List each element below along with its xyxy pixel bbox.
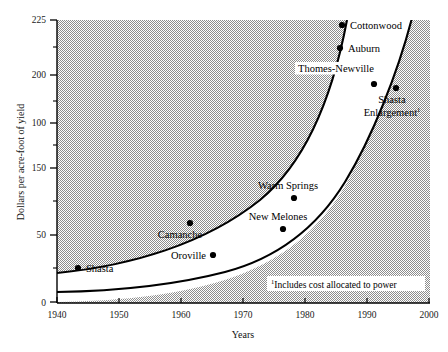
data-point-new-melones[interactable]	[280, 226, 286, 232]
y-tick-label-50: 50	[37, 230, 47, 240]
y-axis-title: Dollars per acre-foot of yield	[15, 104, 26, 221]
chart-figure: 225 200 150 100 50 0 1940 1950 1960 1970…	[0, 0, 448, 352]
x-tick-label-1980: 1980	[296, 310, 315, 320]
y-tick-label-150: 150	[32, 163, 47, 173]
y-tick-label-0: 0	[41, 298, 46, 308]
data-label-shasta-enlargement-line1: Shasta	[378, 94, 406, 105]
data-label-thomes-newville: Thomes-Newville	[298, 63, 374, 74]
data-point-shasta[interactable]	[75, 265, 81, 271]
x-tick-label-2000: 2000	[420, 310, 439, 320]
data-label-oroville: Oroville	[171, 250, 206, 261]
y-tick-label-200: 200	[32, 70, 47, 80]
data-point-auburn[interactable]	[337, 45, 343, 51]
x-tick-label-1970: 1970	[234, 310, 253, 320]
data-label-warm-springs: Warm Springs	[258, 180, 318, 191]
y-tick-label-100: 100	[32, 118, 47, 128]
y-tick-label-225: 225	[32, 15, 47, 25]
data-label-camanche: Camanche	[158, 229, 203, 240]
data-point-oroville[interactable]	[210, 252, 216, 258]
data-point-shasta-enlargement[interactable]	[393, 85, 399, 91]
data-point-cottonwood[interactable]	[339, 22, 345, 28]
x-tick-label-1950: 1950	[110, 310, 129, 320]
x-tick-label-1940: 1940	[48, 310, 67, 320]
x-axis-title: Years	[232, 329, 254, 340]
data-label-auburn: Auburn	[348, 43, 381, 54]
footnote-marker-superscript: 1	[417, 106, 420, 113]
chart-svg: 225 200 150 100 50 0 1940 1950 1960 1970…	[0, 0, 448, 352]
data-label-new-melones: New Melones	[249, 211, 308, 222]
data-label-cottonwood: Cottonwood	[350, 20, 403, 31]
footnote: 1Includes cost allocated to power	[271, 278, 397, 290]
data-point-thomes-newville[interactable]	[371, 81, 377, 87]
x-tick-label-1990: 1990	[358, 310, 377, 320]
data-label-shasta-enlargement-line2: Enlargement1	[364, 106, 421, 118]
footnote-label: Includes cost allocated to power	[274, 280, 397, 290]
data-point-camanche[interactable]	[187, 220, 193, 226]
data-point-warm-springs[interactable]	[291, 195, 297, 201]
data-label-shasta: Shasta	[86, 263, 114, 274]
x-tick-label-1960: 1960	[172, 310, 191, 320]
